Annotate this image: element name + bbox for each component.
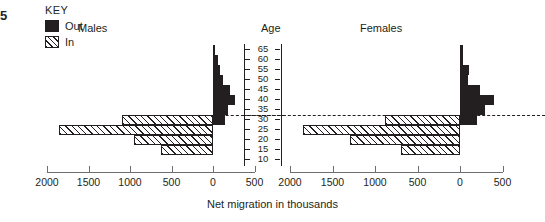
legend-swatch-out-icon bbox=[45, 20, 59, 32]
bar-out-females-age-30 bbox=[460, 115, 477, 125]
bar-out-females-age-45 bbox=[460, 85, 480, 95]
bar-in-males-age-25 bbox=[59, 125, 213, 135]
bar-out-males-age-30 bbox=[213, 115, 225, 125]
bar-out-females-age-55 bbox=[460, 65, 469, 75]
age-tick-label-10: 10 bbox=[244, 154, 282, 164]
bar-out-females-age-35 bbox=[460, 105, 485, 115]
males-x-tick-label-0-4: 0 bbox=[193, 176, 233, 188]
bar-out-males-age-60 bbox=[213, 55, 218, 65]
females-x-tick-label-0-4: 0 bbox=[440, 176, 480, 188]
bar-in-males-age-20 bbox=[134, 135, 213, 145]
x-axis-title: Net migration in thousands bbox=[0, 198, 545, 210]
bar-out-males-age-50 bbox=[213, 75, 223, 85]
panel-title-males: Males bbox=[78, 22, 107, 34]
bar-out-males-age-40 bbox=[213, 95, 235, 105]
bar-out-males-age-45 bbox=[213, 85, 230, 95]
bar-out-females-age-60 bbox=[460, 55, 463, 65]
bar-in-males-age-15 bbox=[161, 145, 213, 155]
age-axis-title: Age bbox=[261, 22, 281, 34]
females-x-tick-label-2000-0: 2000 bbox=[270, 176, 310, 188]
females-x-tick bbox=[333, 166, 334, 172]
males-x-tick-label-500-5: 500 bbox=[235, 176, 275, 188]
males-x-tick-label-2000-0: 2000 bbox=[27, 176, 67, 188]
females-axis-line bbox=[290, 172, 503, 173]
migration-pyramid-figure: 5 KEY Out In Males Age Females 656055504… bbox=[0, 0, 545, 222]
females-x-tick bbox=[290, 166, 291, 172]
females-x-tick bbox=[418, 166, 419, 172]
bar-in-females-age-15 bbox=[401, 145, 461, 155]
males-x-tick bbox=[130, 166, 131, 172]
females-x-tick-label-500-3: 500 bbox=[398, 176, 438, 188]
males-x-tick-label-500-3: 500 bbox=[152, 176, 192, 188]
panel-title-females: Females bbox=[360, 22, 402, 34]
males-x-tick-label-1500-1: 1500 bbox=[69, 176, 109, 188]
males-x-tick bbox=[172, 166, 173, 172]
legend-title: KEY bbox=[45, 4, 83, 16]
age-axis: 656055504540353025201510 bbox=[244, 44, 282, 166]
females-x-tick-label-1500-1: 1500 bbox=[313, 176, 353, 188]
females-x-tick-label-500-5: 500 bbox=[483, 176, 523, 188]
females-x-tick bbox=[503, 166, 504, 172]
males-x-tick-label-1000-2: 1000 bbox=[110, 176, 150, 188]
females-x-tick-label-1000-2: 1000 bbox=[355, 176, 395, 188]
females-x-tick bbox=[375, 166, 376, 172]
bar-out-females-age-40 bbox=[460, 95, 494, 105]
bar-out-females-age-50 bbox=[460, 75, 468, 85]
bar-out-males-age-65 bbox=[213, 45, 215, 55]
males-x-tick bbox=[47, 166, 48, 172]
males-axis-line bbox=[47, 172, 255, 173]
males-x-tick bbox=[89, 166, 90, 172]
figure-edge-marker: 5 bbox=[0, 8, 6, 24]
females-x-tick bbox=[460, 166, 461, 172]
males-x-tick bbox=[255, 166, 256, 172]
bar-out-males-age-55 bbox=[213, 65, 220, 75]
bar-out-females-age-65 bbox=[460, 45, 463, 55]
bar-in-females-age-20 bbox=[350, 135, 461, 145]
males-x-tick bbox=[213, 166, 214, 172]
bar-in-females-age-25 bbox=[303, 125, 460, 135]
bar-out-males-age-35 bbox=[213, 105, 228, 115]
reference-line-females bbox=[243, 115, 545, 116]
bar-in-females-age-30 bbox=[385, 115, 460, 125]
bar-in-males-age-30 bbox=[122, 115, 213, 125]
